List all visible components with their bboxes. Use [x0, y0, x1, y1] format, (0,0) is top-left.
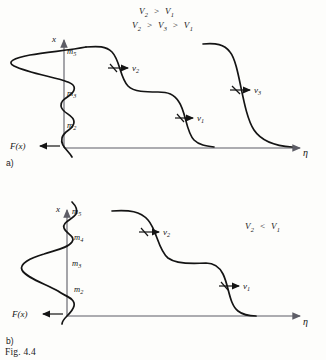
panel-a-velocity-label-v3: v3	[254, 85, 261, 96]
panel-b-distribution-curve	[22, 202, 77, 324]
panel-b-velocity-label-v2: v2	[163, 227, 170, 238]
panel-a-velocity-label-v1: v1	[197, 113, 204, 124]
panel-a-profile-curve-right	[203, 44, 292, 147]
panel-a-mass-label-m5: m5	[67, 46, 76, 57]
panel-a-fx-label: F(x)	[9, 141, 26, 151]
panel-b-fx-label: F(x)	[11, 309, 28, 319]
panel-b-velocity-label-v1: v1	[243, 281, 250, 292]
panel-b-diagram: x η F(x) m5 m4 m3 m2 v2 v1	[0, 178, 326, 360]
panel-b-mass-label-m4: m4	[74, 232, 83, 243]
figure-caption: Fig. 4.4	[5, 347, 36, 357]
panel-b-inequality: V2 < V1	[245, 221, 280, 233]
panel-a-eta-axis-label: η	[303, 147, 308, 158]
panel-a-tag: a)	[6, 158, 14, 168]
figure-container: x η F(x) m5 m3 m2 v2 v1	[0, 0, 326, 360]
panel-b-mass-label-m5: m5	[72, 206, 81, 217]
panel-b-mass-label-m3: m3	[72, 258, 81, 269]
panel-a-mass-label-m2: m2	[67, 120, 76, 131]
panel-b-mass-label-m2: m2	[74, 284, 83, 295]
panel-b-profile-curve	[112, 211, 256, 316]
panel-b-tag: b)	[6, 336, 14, 346]
panel-a-velocity-label-v2: v2	[132, 63, 139, 74]
panel-a-profile-curve-left	[86, 47, 214, 147]
panel-b-x-axis-label: x	[55, 204, 60, 214]
panel-b-eta-axis-label: η	[303, 316, 308, 327]
panel-a-x-axis-label: x	[51, 34, 56, 44]
panel-a-inequality-line-2: V2 > V3 > V1	[132, 20, 193, 32]
panel-a-inequality-line-1: V2 > V1	[139, 6, 174, 18]
